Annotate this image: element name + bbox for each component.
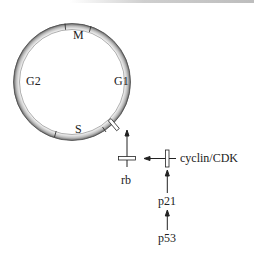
phase-label-g2: G2 [26,75,41,87]
rb-inhibition-arrow [119,130,136,167]
cell-cycle-diagram [0,0,254,263]
p53-label: p53 [158,232,176,244]
phase-label-s: S [75,123,82,135]
cyclin-cdk-label: cyclin/CDK [180,152,238,164]
p53-arrow [165,210,169,230]
p21-arrow [165,170,169,193]
p21-label: p21 [158,195,176,207]
phase-label-m: M [73,29,84,41]
phase-label-g1: G1 [114,75,129,87]
rb-label: rb [121,174,131,186]
cyclin-cdk-arrow [144,150,176,167]
